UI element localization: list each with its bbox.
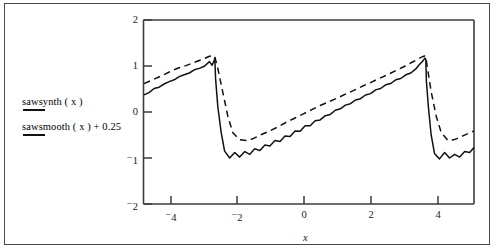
y-axis-ticks [144, 20, 153, 204]
sawsynth-path [144, 58, 474, 159]
sawsmooth-path [144, 55, 474, 140]
legend-entry-sawsmooth: sawsmooth ( x ) + 0.25 [22, 121, 137, 136]
legend-swatch-dashed-line [23, 134, 45, 136]
legend-label-sawsmooth: sawsmooth ( x ) + 0.25 [22, 121, 137, 133]
y-tick-label-0: 0 [118, 106, 138, 117]
y-tick-label-1: 1 [118, 60, 138, 71]
figure-container: sawsynth ( x ) sawsmooth ( x ) + 0.25 [0, 0, 496, 249]
x-tick-label-neg4: −4 [157, 209, 185, 223]
x-axis-title: x [303, 232, 308, 243]
plot-legend: sawsynth ( x ) sawsmooth ( x ) + 0.25 [22, 96, 137, 146]
x-tick-label-neg2: −2 [223, 209, 251, 223]
x-tick-label-4: 4 [424, 209, 452, 220]
x-axis-ticks [171, 196, 438, 204]
x-tick-label-2: 2 [357, 209, 385, 220]
x-tick-label-0: 0 [290, 209, 318, 220]
y-tick-label-neg2: −2 [114, 198, 138, 212]
series-sawsynth-curve [144, 58, 474, 159]
y-tick-label-2: 2 [118, 14, 138, 25]
plot-frame [144, 20, 475, 204]
plot-area: 2 1 0 −1 −2 −4 −2 0 2 4 x [130, 8, 486, 244]
y-tick-label-neg1: −1 [114, 152, 138, 166]
series-sawsmooth-curve [144, 55, 474, 140]
legend-swatch-solid-line [23, 109, 45, 111]
